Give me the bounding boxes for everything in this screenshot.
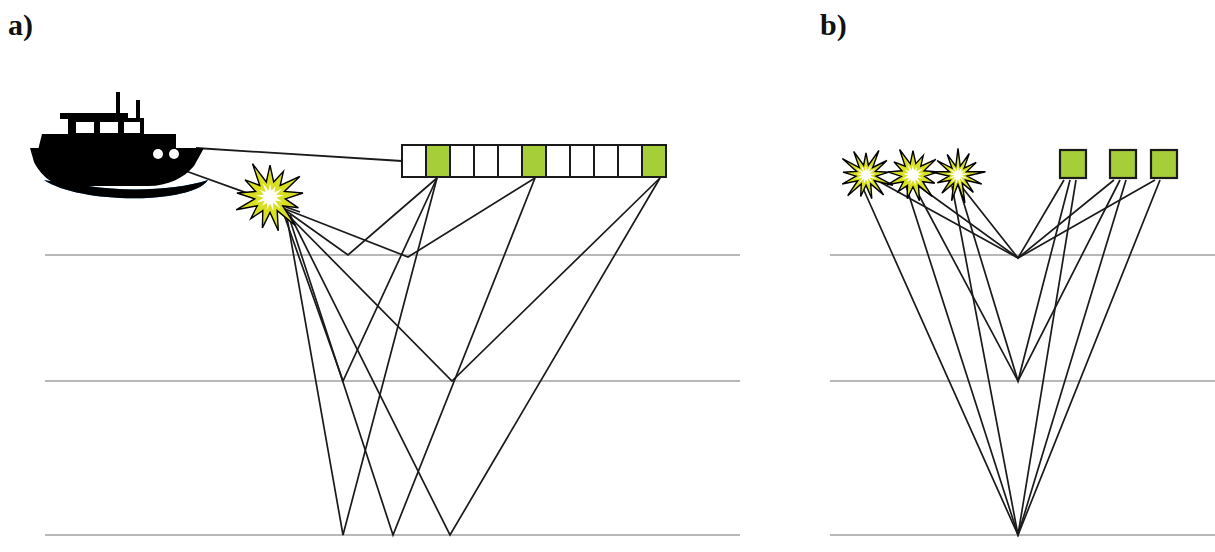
survey-vessel-porthole-2 bbox=[169, 149, 179, 159]
raypath-shallow-to-rx1 bbox=[278, 178, 437, 255]
streamer-cell-10[interactable] bbox=[618, 145, 642, 177]
streamer-layer bbox=[402, 145, 666, 177]
streamer-cell-5[interactable] bbox=[498, 145, 522, 177]
streamer-cell-4[interactable] bbox=[474, 145, 498, 177]
survey-vessel-window-2 bbox=[100, 122, 118, 133]
survey-vessel-porthole-1 bbox=[153, 149, 163, 159]
receiver-square-3[interactable] bbox=[1151, 150, 1177, 178]
survey-vessel-body bbox=[30, 92, 208, 198]
figure-canvas: a) b) bbox=[0, 0, 1215, 552]
streamer-cell-9[interactable] bbox=[594, 145, 618, 177]
receiver-square-2[interactable] bbox=[1110, 150, 1136, 178]
vessel-layer bbox=[30, 92, 208, 198]
survey-vessel-window-1 bbox=[76, 122, 94, 133]
cmp-raypath-middle-mid bbox=[913, 180, 1120, 381]
receiver-layer bbox=[1060, 150, 1177, 178]
seismic-diagram-svg bbox=[0, 0, 1215, 552]
cmp-raypath-middle-near bbox=[958, 180, 1070, 381]
source-star-2 bbox=[887, 150, 938, 201]
cmp-raypath-deep-near bbox=[952, 180, 1076, 535]
source-star-3 bbox=[931, 148, 986, 203]
survey-vessel bbox=[30, 92, 208, 198]
raypath-middle-to-rx3 bbox=[284, 178, 660, 381]
receiver-square-1[interactable] bbox=[1060, 150, 1086, 178]
streamer-cell-6-active[interactable] bbox=[522, 145, 546, 177]
streamer-cell-11-active[interactable] bbox=[642, 145, 666, 177]
survey-vessel-window-3 bbox=[124, 122, 140, 133]
streamer-cell-1[interactable] bbox=[402, 145, 426, 177]
receiver-streamer[interactable] bbox=[402, 145, 666, 177]
streamer-cell-8[interactable] bbox=[570, 145, 594, 177]
streamer-tow-line bbox=[196, 148, 402, 161]
raypath-middle-to-rx1 bbox=[282, 178, 437, 381]
source-star-1 bbox=[842, 151, 893, 199]
streamer-cell-2-active[interactable] bbox=[426, 145, 450, 177]
raypath-layer bbox=[278, 178, 1160, 535]
cmp-raypath-shallow-near bbox=[958, 180, 1064, 258]
streamer-cell-3[interactable] bbox=[450, 145, 474, 177]
streamer-cell-7[interactable] bbox=[546, 145, 570, 177]
